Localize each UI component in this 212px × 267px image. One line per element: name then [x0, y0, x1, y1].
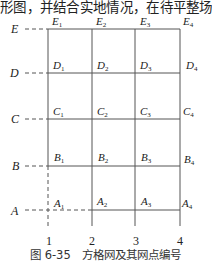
- point-subscript: 1: [61, 65, 65, 73]
- point-D4: D4: [186, 60, 197, 73]
- point-subscript: 2: [105, 157, 109, 165]
- point-subscript: 1: [59, 21, 63, 29]
- point-subscript: 4: [190, 21, 194, 29]
- row-label-E: E: [11, 23, 18, 35]
- point-subscript: 3: [148, 201, 152, 209]
- point-subscript: 2: [103, 21, 107, 29]
- point-A3: A3: [141, 196, 151, 209]
- point-subscript: 4: [189, 203, 193, 211]
- point-subscript: 4: [191, 159, 195, 167]
- point-B4: B4: [184, 154, 194, 167]
- point-C1: C1: [53, 106, 64, 119]
- point-subscript: 4: [194, 65, 198, 73]
- point-subscript: 1: [61, 157, 65, 165]
- point-C2: C2: [97, 106, 108, 119]
- point-E2: E2: [96, 16, 106, 29]
- point-subscript: 1: [60, 111, 64, 119]
- point-subscript: 1: [61, 203, 65, 211]
- point-subscript: 2: [105, 65, 109, 73]
- point-C4: C4: [183, 106, 194, 119]
- point-E4: E4: [183, 16, 193, 29]
- row-label-A: A: [11, 205, 18, 217]
- point-subscript: 3: [147, 111, 151, 119]
- point-subscript: 4: [190, 111, 194, 119]
- point-C3: C3: [140, 106, 151, 119]
- point-D3: D3: [140, 60, 151, 73]
- row-label-D: D: [10, 67, 19, 79]
- point-subscript: 3: [148, 157, 152, 165]
- point-A4: A4: [182, 198, 192, 211]
- point-E1: E1: [52, 16, 62, 29]
- grid-diagram: [0, 0, 212, 267]
- point-D2: D2: [97, 60, 108, 73]
- point-B2: B2: [98, 152, 108, 165]
- point-subscript: 2: [104, 201, 108, 209]
- point-subscript: 3: [147, 21, 151, 29]
- figure-caption: 图 6-35 方格网及其网点编号: [30, 246, 181, 262]
- point-B3: B3: [141, 152, 151, 165]
- point-E3: E3: [140, 16, 150, 29]
- point-A1: A1: [54, 198, 64, 211]
- row-label-B: B: [12, 160, 19, 172]
- point-A2: A2: [97, 196, 107, 209]
- point-subscript: 3: [148, 65, 152, 73]
- row-label-C: C: [11, 113, 19, 125]
- point-B1: B1: [54, 152, 64, 165]
- point-subscript: 2: [104, 111, 108, 119]
- point-D1: D1: [53, 60, 64, 73]
